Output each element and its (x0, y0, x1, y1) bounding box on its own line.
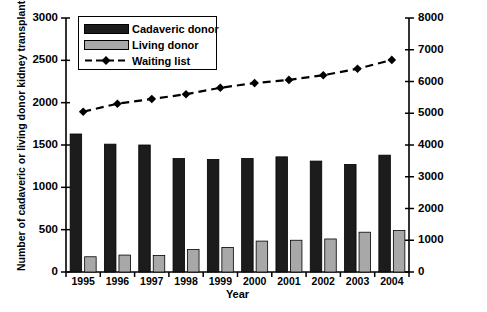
y-axis-right-tick: 0 (418, 265, 464, 277)
y-axis-left-tick: 1000 (14, 180, 58, 192)
waiting-list-marker (182, 90, 191, 99)
y-axis-right-tick: 6000 (418, 75, 464, 87)
waiting-list-marker (79, 107, 88, 116)
bar-cadaveric (139, 145, 151, 272)
legend-label-cadaveric: Cadaveric donor (132, 23, 219, 35)
y-axis-left-tick: 0 (14, 265, 58, 277)
legend-item-living: Living donor (84, 37, 199, 52)
chart-figure: Number of cadaveric or living donor kidn… (0, 0, 487, 312)
waiting-list-marker (147, 95, 156, 104)
waiting-list-marker (388, 56, 397, 65)
legend-item-waiting: Waiting list (84, 53, 190, 68)
bar-cadaveric (310, 161, 322, 272)
y-axis-left-tick: 3000 (14, 11, 58, 23)
waiting-list-marker (319, 71, 328, 80)
waiting-list-marker (216, 84, 225, 93)
legend-item-cadaveric: Cadaveric donor (84, 21, 219, 36)
bar-cadaveric (104, 144, 116, 272)
legend-label-waiting: Waiting list (132, 55, 190, 67)
y-axis-right-tick: 5000 (418, 106, 464, 118)
bar-living (256, 241, 268, 272)
bar-cadaveric (70, 134, 82, 272)
y-axis-right-tick: 4000 (418, 138, 464, 150)
living-swatch-icon (84, 40, 129, 50)
bar-cadaveric (379, 155, 391, 272)
y-axis-right-tick: 2000 (418, 202, 464, 214)
legend-label-living: Living donor (132, 39, 199, 51)
bar-cadaveric (242, 159, 254, 272)
cadaveric-swatch-icon (84, 24, 129, 34)
bar-living (188, 250, 200, 272)
y-axis-left-tick: 500 (14, 223, 58, 235)
y-axis-right-tick: 3000 (418, 170, 464, 182)
bar-living (393, 231, 405, 272)
y-axis-left-tick: 2500 (14, 53, 58, 65)
x-axis-tick: 2004 (372, 275, 412, 287)
waiting-list-marker (113, 99, 122, 108)
bar-living (119, 255, 131, 272)
bar-cadaveric (173, 159, 185, 272)
y-axis-left-tick: 2000 (14, 96, 58, 108)
bar-cadaveric (345, 164, 357, 272)
y-axis-right-tick: 8000 (418, 11, 464, 23)
y-axis-right-tick: 7000 (418, 43, 464, 55)
y-axis-left-tick: 1500 (14, 138, 58, 150)
plot-area (0, 0, 487, 312)
waiting-list-marker (250, 79, 259, 88)
waiting-list-marker (285, 76, 294, 85)
legend: Cadaveric donor Living donor Waiting lis… (78, 16, 217, 70)
waiting-line-icon (84, 55, 129, 66)
bar-cadaveric (276, 157, 288, 272)
bar-living (325, 239, 337, 272)
bar-living (222, 247, 234, 272)
bar-living (290, 240, 302, 272)
y-axis-right-tick: 1000 (418, 233, 464, 245)
waiting-list-marker (353, 65, 362, 74)
bar-living (153, 255, 165, 272)
bar-cadaveric (207, 159, 219, 272)
bar-living (359, 232, 371, 272)
bar-living (85, 257, 97, 272)
